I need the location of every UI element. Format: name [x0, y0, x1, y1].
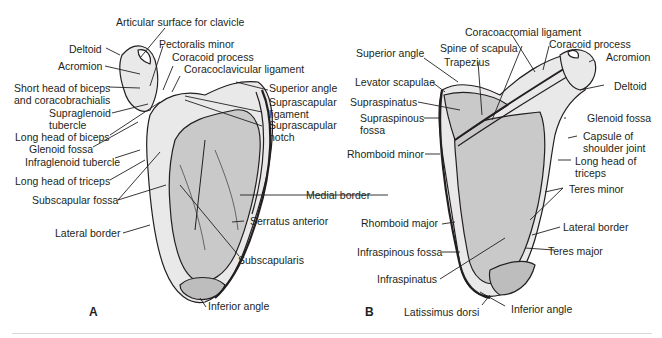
label-infraglenoid-tubercle: Infraglenoid tubercle: [25, 156, 120, 168]
label-supraglenoid: Supraglenoid: [49, 107, 111, 119]
panel-label-a: A: [89, 305, 98, 319]
label-levator-scapulae: Levator scapulae: [355, 76, 435, 88]
label-rhomboid-minor: Rhomboid minor: [347, 148, 424, 160]
label-lateral-border-b: Lateral border: [563, 221, 628, 233]
label-suprascapular-1: Suprascapular: [269, 96, 337, 108]
label-inferior-angle-b: Inferior angle: [511, 303, 572, 315]
scapula-posterior: [439, 50, 596, 298]
label-superior-angle-a: Superior angle: [269, 82, 337, 94]
label-short-head-of-biceps: Short head of biceps: [14, 82, 110, 94]
label-inferior-angle-a: Inferior angle: [208, 300, 269, 312]
label-acromion-b: Acromion: [606, 51, 650, 63]
label-suprascapular-2: Suprascapular: [269, 119, 337, 131]
label-trapezius: Trapezius: [444, 56, 490, 68]
label-superior-angle-b: Superior angle: [356, 47, 424, 59]
label-acromion-a: Acromion: [58, 60, 102, 72]
label-and-coracobrachialis: and coracobrachialis: [14, 94, 110, 106]
label-infraspinous-fossa: Infraspinous fossa: [357, 246, 442, 258]
label-capsule-of: Capsule of: [583, 130, 633, 142]
bottom-divider: [12, 333, 652, 334]
label-supraspinous: Supraspinous: [360, 112, 424, 124]
label-lateral-border-a: Lateral border: [55, 227, 120, 239]
label-deltoid-a: Deltoid: [69, 43, 102, 55]
label-coracoclavicular-ligament: Coracoclavicular ligament: [184, 63, 304, 75]
label-medial-border: Medial border: [306, 189, 370, 201]
label-coracoacromial-ligament: Coracoacromial ligament: [465, 26, 581, 38]
label-shoulder-joint: shoulder joint: [583, 142, 645, 154]
label-supraspinatus: Supraspinatus: [350, 96, 417, 108]
label-triceps: triceps: [575, 167, 606, 179]
label-long-head-of-triceps-a: Long head of triceps: [15, 175, 110, 187]
label-teres-minor: Teres minor: [569, 183, 624, 195]
label-glenoid-fossa-b: Glenoid fossa: [587, 112, 651, 124]
label-subscapularis: Subscapularis: [238, 254, 304, 266]
label-glenoid-fossa-a: Glenoid fossa: [29, 143, 93, 155]
label-latissimus-dorsi: Latissimus dorsi: [404, 306, 479, 318]
label-subscapular-fossa: Subscapular fossa: [32, 194, 118, 206]
label-articular-surface-for-clavicle: Articular surface for clavicle: [116, 16, 244, 28]
label-long-head-of: Long head of: [575, 155, 636, 167]
label-coracoid-process-a: Coracoid process: [172, 51, 254, 63]
label-rhomboid-major: Rhomboid major: [361, 217, 438, 229]
label-serratus-anterior: Serratus anterior: [250, 215, 328, 227]
label-tubercle: tubercle: [49, 119, 86, 131]
label-infraspinatus: Infraspinatus: [377, 273, 437, 285]
label-teres-major: Teres major: [548, 245, 603, 257]
label-fossa: fossa: [360, 124, 385, 136]
panel-label-b: B: [365, 305, 374, 319]
label-spine-of-scapula: Spine of scapula: [440, 42, 518, 54]
label-pectoralis-minor: Pectoralis minor: [159, 38, 234, 50]
label-coracoid-process-b: Coracoid process: [549, 38, 631, 50]
label-deltoid-b: Deltoid: [614, 80, 647, 92]
label-notch: notch: [269, 131, 295, 143]
label-long-head-of-biceps: Long head of biceps: [15, 131, 110, 143]
